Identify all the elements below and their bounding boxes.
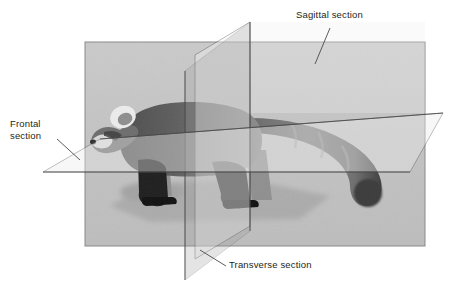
label-transverse-section: Transverse section — [229, 259, 312, 271]
anatomical-planes-illustration — [0, 0, 451, 295]
figure-canvas: Sagittal section Frontal section Transve… — [0, 0, 451, 295]
plane-sagittal-band — [250, 22, 425, 113]
label-frontal-section: Frontal section — [10, 118, 41, 141]
label-sagittal-section: Sagittal section — [296, 9, 363, 21]
